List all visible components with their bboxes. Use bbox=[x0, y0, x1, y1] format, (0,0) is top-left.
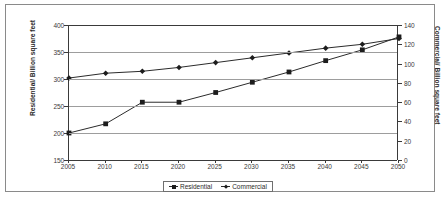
y-axis-right-tick-labels: 020406080100120140 bbox=[404, 25, 426, 160]
y-axis-right-title: Commercial/ Billion square feet bbox=[433, 26, 441, 116]
chart-legend: Residential Commercial bbox=[163, 181, 273, 192]
x-axis-tick-labels: 2005201020152020202520302035204020452050 bbox=[68, 163, 398, 175]
data-point-marker bbox=[287, 70, 292, 75]
data-point-marker bbox=[250, 55, 256, 61]
x-axis-tick-label: 2005 bbox=[61, 163, 75, 170]
data-point-marker bbox=[250, 80, 255, 85]
gridline bbox=[69, 133, 397, 134]
data-point-marker bbox=[213, 60, 219, 66]
x-axis-tick-label: 2050 bbox=[391, 163, 405, 170]
x-axis-tick-label: 2040 bbox=[317, 163, 331, 170]
chart-frame: 150200250300350400 020406080100120140 20… bbox=[5, 4, 435, 192]
legend-item-commercial[interactable]: Commercial bbox=[221, 183, 267, 190]
legend-square-marker-icon bbox=[169, 186, 178, 187]
plot-area bbox=[68, 25, 398, 160]
y-axis-right-tick-label: 60 bbox=[404, 99, 411, 106]
y-axis-left-title: Residential/ Billion square feet bbox=[29, 26, 37, 116]
x-axis-tick-label: 2045 bbox=[354, 163, 368, 170]
gridline bbox=[69, 106, 397, 107]
x-axis-tick-label: 2035 bbox=[281, 163, 295, 170]
gridline bbox=[69, 52, 397, 53]
y-axis-left-tick-labels: 150200250300350400 bbox=[42, 25, 64, 160]
data-point-marker bbox=[323, 58, 328, 63]
series-markers-commercial bbox=[66, 36, 402, 81]
y-axis-right-tick-label: 140 bbox=[404, 22, 415, 29]
x-axis-tick-label: 2025 bbox=[207, 163, 221, 170]
gridline bbox=[69, 79, 397, 80]
series-line-commercial bbox=[69, 39, 399, 79]
axis-line bbox=[69, 25, 397, 26]
data-point-marker bbox=[140, 68, 146, 74]
legend-label-commercial: Commercial bbox=[232, 183, 267, 190]
data-point-marker bbox=[103, 121, 108, 126]
x-axis-tick-label: 2020 bbox=[171, 163, 185, 170]
data-point-marker bbox=[360, 41, 366, 47]
data-point-marker bbox=[140, 100, 145, 105]
series-markers-residential bbox=[67, 34, 402, 135]
x-axis-tick-label: 2015 bbox=[134, 163, 148, 170]
y-axis-right-tick-label: 100 bbox=[404, 60, 415, 67]
y-axis-right-tick-label: 40 bbox=[404, 118, 411, 125]
data-point-marker bbox=[323, 45, 329, 51]
legend-label-residential: Residential bbox=[180, 183, 212, 190]
y-axis-right-tick-label: 80 bbox=[404, 79, 411, 86]
y-axis-right-tick-label: 20 bbox=[404, 137, 411, 144]
data-point-marker bbox=[177, 100, 182, 105]
data-point-marker bbox=[103, 70, 109, 76]
series-layer bbox=[69, 25, 399, 160]
legend-item-residential[interactable]: Residential bbox=[169, 183, 212, 190]
data-point-marker bbox=[176, 65, 182, 71]
y-axis-right-tick-label: 120 bbox=[404, 41, 415, 48]
x-axis-tick-label: 2030 bbox=[244, 163, 258, 170]
legend-diamond-marker-icon bbox=[221, 186, 230, 187]
x-axis-tick-label: 2010 bbox=[97, 163, 111, 170]
data-point-marker bbox=[213, 90, 218, 95]
